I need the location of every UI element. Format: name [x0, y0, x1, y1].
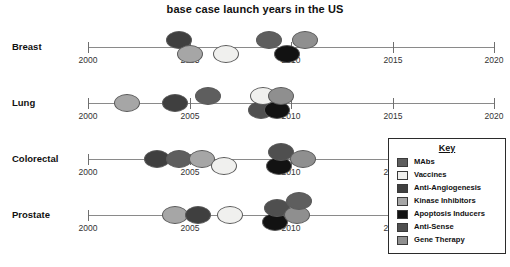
- legend-swatch-icon: [397, 158, 408, 167]
- axis-tick-2000: [88, 98, 89, 109]
- data-bubble: [162, 94, 188, 112]
- data-bubble: [114, 94, 140, 112]
- legend-title: Key: [389, 143, 505, 153]
- row-label-prostate: Prostate: [12, 209, 84, 220]
- legend-label: Kinase Inhibitors: [414, 196, 476, 205]
- axis-tick-2015: [393, 42, 394, 53]
- data-bubble: [286, 192, 312, 210]
- row-label-breast: Breast: [12, 41, 84, 52]
- timeline-row-lung: Lung20002005201020152020: [0, 82, 510, 138]
- axis-tick-2000: [88, 154, 89, 165]
- legend-label: Gene Therapy: [414, 235, 465, 244]
- axis-tick-label-2005: 2005: [173, 111, 207, 121]
- legend-label: MAbs: [414, 157, 435, 166]
- data-bubble: [268, 87, 294, 105]
- data-bubble: [290, 150, 316, 168]
- legend-swatch-icon: [397, 236, 408, 245]
- data-bubble: [177, 45, 203, 63]
- row-label-colorectal: Colorectal: [12, 153, 84, 164]
- axis-tick-label-2000: 2000: [71, 167, 105, 177]
- axis-tick-2020: [494, 98, 495, 109]
- axis-tick-label-2015: 2015: [376, 111, 410, 121]
- legend-swatch-icon: [397, 210, 408, 219]
- chart-title: base case launch years in the US: [0, 3, 510, 15]
- legend-swatch-icon: [397, 184, 408, 193]
- legend-label: Vaccines: [414, 170, 447, 179]
- legend-swatch-icon: [397, 223, 408, 232]
- axis-tick-label-2015: 2015: [376, 55, 410, 65]
- legend-label: Apoptosis Inducers: [414, 209, 485, 218]
- axis-tick-2020: [494, 42, 495, 53]
- data-bubble: [217, 206, 243, 224]
- legend-box: Key MAbsVaccinesAnti-AngiogenesisKinase …: [388, 138, 506, 254]
- data-bubble: [195, 87, 221, 105]
- legend-label: Anti-Angiogenesis: [414, 183, 481, 192]
- axis-tick-label-2020: 2020: [477, 111, 510, 121]
- axis-tick-2005: [190, 98, 191, 109]
- axis-tick-label-2020: 2020: [477, 55, 510, 65]
- data-bubble: [213, 45, 239, 63]
- axis-tick-2015: [393, 98, 394, 109]
- axis-tick-label-2000: 2000: [71, 111, 105, 121]
- row-label-lung: Lung: [12, 97, 84, 108]
- axis-tick-label-2005: 2005: [173, 167, 207, 177]
- axis-tick-label-2005: 2005: [173, 223, 207, 233]
- data-bubble: [185, 206, 211, 224]
- axis-tick-label-2000: 2000: [71, 55, 105, 65]
- chart-canvas: base case launch years in the US Breast2…: [0, 0, 510, 267]
- legend-swatch-icon: [397, 197, 408, 206]
- axis-tick-label-2000: 2000: [71, 223, 105, 233]
- data-bubble: [211, 157, 237, 175]
- timeline-row-breast: Breast20002005201020152020: [0, 26, 510, 82]
- data-bubble: [274, 45, 300, 63]
- legend-label: Anti-Sense: [414, 222, 454, 231]
- axis-tick-2000: [88, 210, 89, 221]
- axis-tick-2000: [88, 42, 89, 53]
- legend-swatch-icon: [397, 171, 408, 180]
